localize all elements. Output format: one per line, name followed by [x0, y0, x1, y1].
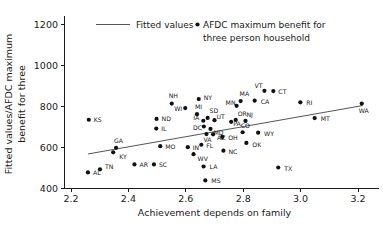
- data-point-label: NC: [228, 148, 237, 155]
- data-point[interactable]: [256, 131, 260, 135]
- plot-area: 400600800100012002.22.42.62.83.03.2Achie…: [0, 0, 383, 235]
- data-point[interactable]: [221, 149, 225, 153]
- data-point-label: VT: [254, 82, 262, 89]
- data-point[interactable]: [154, 117, 158, 121]
- data-point-label: MN: [226, 99, 236, 106]
- data-point-label: IL: [161, 125, 167, 132]
- data-point[interactable]: [197, 97, 201, 101]
- data-point-label: DC: [193, 124, 202, 131]
- data-point[interactable]: [206, 116, 210, 120]
- data-point[interactable]: [86, 170, 90, 174]
- data-point[interactable]: [154, 126, 158, 130]
- data-point-label: TX: [283, 165, 293, 172]
- data-point-label: NY: [204, 94, 213, 101]
- data-point-label: CO: [241, 122, 250, 129]
- data-point[interactable]: [202, 124, 206, 128]
- data-point-label: OH: [228, 134, 238, 141]
- x-tick-label: 3.2: [350, 193, 365, 204]
- data-point[interactable]: [201, 119, 205, 123]
- data-point-label: LA: [210, 163, 219, 170]
- x-tick-label: 2.2: [63, 193, 78, 204]
- data-point-label: UT: [217, 113, 226, 120]
- data-point[interactable]: [271, 89, 275, 93]
- data-point[interactable]: [132, 162, 136, 166]
- data-point[interactable]: [253, 99, 257, 103]
- y-tick-label: 400: [40, 183, 58, 194]
- data-point[interactable]: [152, 162, 156, 166]
- data-point-label: WI: [174, 105, 182, 112]
- data-point-label: OK: [252, 141, 262, 148]
- data-point-label: NJ: [246, 111, 253, 119]
- data-point-label: TN: [104, 163, 114, 170]
- data-point[interactable]: [234, 118, 238, 122]
- fitted-values-line: [88, 106, 363, 154]
- data-point-label: SC: [159, 161, 167, 168]
- data-point[interactable]: [276, 165, 280, 169]
- data-point[interactable]: [183, 106, 187, 110]
- data-point-label: MT: [321, 115, 330, 122]
- x-tick-label: 3.0: [293, 193, 308, 204]
- data-point[interactable]: [111, 150, 115, 154]
- data-point[interactable]: [114, 146, 118, 150]
- data-point[interactable]: [199, 143, 203, 147]
- data-point-label: WY: [264, 130, 274, 137]
- legend-label-afdc-line1: AFDC maximum benefit for: [203, 20, 326, 30]
- data-point[interactable]: [201, 164, 205, 168]
- data-point[interactable]: [241, 130, 245, 134]
- data-point-label: GA: [114, 137, 124, 144]
- data-point-label: RI: [306, 99, 312, 106]
- x-tick-label: 2.4: [121, 193, 136, 204]
- data-point[interactable]: [87, 118, 91, 122]
- data-point[interactable]: [220, 135, 224, 139]
- data-point[interactable]: [313, 116, 317, 120]
- x-axis-title: Achievement depends on family: [138, 207, 292, 218]
- data-point-label: MI: [195, 103, 202, 110]
- data-point-label: CA: [261, 98, 270, 105]
- x-tick-label: 2.8: [236, 193, 251, 204]
- data-point[interactable]: [239, 99, 243, 103]
- data-point[interactable]: [158, 144, 162, 148]
- y-axis-title-line2: benefit for three: [16, 65, 27, 143]
- data-point[interactable]: [170, 101, 174, 105]
- data-point[interactable]: [186, 145, 190, 149]
- data-point-label: IN: [193, 144, 200, 151]
- y-tick-label: 800: [40, 101, 58, 112]
- legend-dot-swatch: [195, 22, 199, 26]
- data-point-label: IA: [193, 114, 200, 121]
- data-point[interactable]: [203, 178, 207, 182]
- data-point[interactable]: [298, 100, 302, 104]
- data-point[interactable]: [98, 167, 102, 171]
- data-point-label: MS: [211, 177, 220, 184]
- data-point-label: KY: [119, 153, 127, 160]
- data-point[interactable]: [360, 101, 364, 105]
- scatter-chart: 400600800100012002.22.42.62.83.03.2Achie…: [0, 0, 383, 235]
- data-point-label: MA: [240, 90, 250, 97]
- data-point-label: WA: [359, 107, 370, 114]
- data-point-label: ND: [162, 115, 172, 122]
- y-tick-label: 1200: [34, 19, 58, 30]
- y-tick-label: 600: [40, 142, 58, 153]
- legend-label-fitted-values: Fitted values: [136, 20, 194, 30]
- data-point-label: NH: [169, 92, 179, 99]
- data-point-label: VA: [203, 136, 212, 143]
- data-point-label: AR: [139, 161, 148, 168]
- data-point[interactable]: [262, 89, 266, 93]
- data-point[interactable]: [211, 132, 215, 136]
- x-tick-label: 2.6: [178, 193, 193, 204]
- data-point-label: WV: [198, 155, 209, 162]
- data-point-label: KS: [94, 116, 102, 123]
- data-point[interactable]: [208, 127, 212, 131]
- y-tick-label: 1000: [34, 60, 58, 71]
- data-point-label: CT: [278, 88, 286, 95]
- legend-label-afdc-line2: three person household: [203, 33, 310, 43]
- data-point[interactable]: [244, 141, 248, 145]
- y-axis-title-line1: Fitted values/AFDC maximum: [3, 34, 14, 175]
- data-point[interactable]: [191, 152, 195, 156]
- data-point-label: MO: [165, 143, 175, 150]
